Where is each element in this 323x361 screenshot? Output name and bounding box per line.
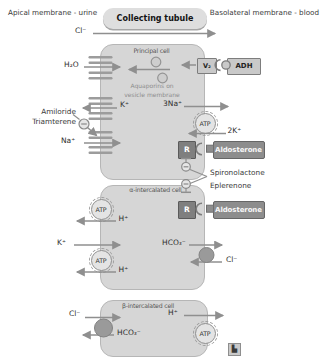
cl-paracellular-label: Cl⁻ — [75, 27, 86, 35]
h-k-atpase-pump-alpha: ATP — [91, 250, 112, 271]
amiloride-label: Amiloride — [26, 108, 76, 115]
beta-intercalated-cell-name: β-intercalated cell — [100, 303, 196, 309]
h-atpase-pump-alpha-top: ATP — [91, 199, 112, 220]
h2o-label: H₂O — [64, 61, 79, 69]
aldosterone-box-principal: Aldosterone — [213, 141, 265, 159]
k-uptake-label-alpha: K⁺ — [57, 239, 66, 247]
h-secretion-label-alpha-bottom: H⁺ — [119, 266, 129, 274]
cl-label-alpha: Cl⁻ — [226, 256, 237, 264]
k-secretion-label: K⁺ — [120, 101, 129, 109]
v2-receptor: V₂ — [197, 58, 217, 74]
collecting-tubule-title: Collecting tubule — [103, 8, 207, 29]
basolateral-membrane-label: Basolateral membrane - blood — [210, 9, 319, 16]
alpha-intercalated-cell-name: α-intercalated cell — [104, 187, 207, 193]
na-k-atpase-pump: ATP — [195, 113, 216, 134]
principal-cell-name: Principal cell — [100, 48, 203, 54]
aquaporin-note-line2: vesicle membrane — [108, 92, 196, 98]
adh-box: ADH — [227, 58, 261, 75]
collecting-tubule-diagram: ATP ATP ATP ATP V₂ ADH R Aldosterone R A… — [0, 0, 323, 361]
k2-label: 2K⁺ — [228, 127, 242, 135]
h-label-beta: H⁺ — [168, 309, 178, 317]
triamterene-label: Triamterene — [26, 118, 76, 125]
publisher-logo-icon: ▙ — [228, 343, 241, 356]
principal-cell-shape — [100, 44, 205, 180]
hco3-label-alpha: HCO₃⁻ — [162, 239, 186, 247]
amiloride-inhibition-icon — [79, 119, 89, 129]
na-entry-label: Na⁺ — [61, 137, 75, 145]
aldosterone-box-alpha: Aldosterone — [213, 201, 265, 219]
eplerenone-label: Eplerenone — [210, 182, 251, 189]
apical-membrane-label: Apical membrane - urine — [8, 9, 97, 16]
h-atpase-pump-beta: ATP — [195, 323, 216, 344]
spironolactone-label: Spironolactone — [210, 169, 265, 176]
aquaporin-note-line1: Aquaporins on — [108, 83, 196, 89]
aldosterone-receptor-principal: R — [178, 141, 196, 159]
cl-label-beta: Cl⁻ — [69, 310, 80, 318]
na3-label: 3Na⁺ — [163, 100, 182, 108]
aldosterone-receptor-alpha: R — [178, 201, 196, 219]
h-secretion-label-alpha-top: H⁺ — [119, 215, 129, 223]
hco3-label-beta: HCO₃⁻ — [117, 329, 141, 337]
amiloride-inhibit-arrow — [88, 128, 97, 136]
